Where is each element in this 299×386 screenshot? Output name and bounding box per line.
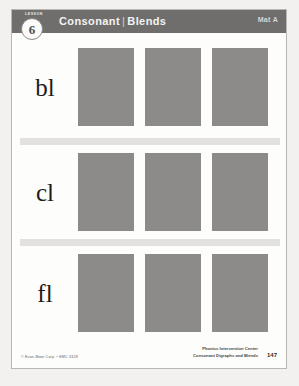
picture-placeholder[interactable]	[78, 254, 134, 332]
picture-placeholder[interactable]	[212, 254, 268, 332]
row-divider	[20, 239, 280, 246]
worksheet-body: bl cl fl	[12, 33, 286, 338]
picture-placeholder[interactable]	[145, 254, 201, 332]
blend-row: bl	[12, 41, 286, 133]
lesson-label: LESSON	[21, 12, 47, 16]
page-number: 147	[267, 352, 277, 358]
blend-label: fl	[12, 281, 78, 306]
header-bar: Consonant|Blends Mat A	[12, 10, 286, 33]
picture-placeholder[interactable]	[145, 153, 201, 231]
blend-label: bl	[12, 75, 78, 100]
mat-marker: Mat A	[258, 16, 278, 23]
picture-placeholder[interactable]	[145, 48, 201, 126]
picture-strip	[78, 153, 286, 231]
picture-placeholder[interactable]	[212, 48, 268, 126]
footer-series: Phonics Intervention Center Consonant Di…	[193, 346, 258, 359]
footer-series-line2: Consonant Digraphs and Blends	[193, 353, 258, 359]
worksheet-page: Consonant|Blends Mat A LESSON 6 bl cl	[11, 9, 287, 369]
footer-series-line1: Phonics Intervention Center	[193, 346, 258, 352]
row-divider	[20, 138, 280, 145]
title-secondary: Blends	[127, 15, 166, 27]
picture-strip	[78, 48, 286, 126]
blend-row: cl	[12, 146, 286, 238]
title-primary: Consonant	[59, 15, 120, 27]
picture-placeholder[interactable]	[78, 48, 134, 126]
picture-placeholder[interactable]	[78, 153, 134, 231]
picture-strip	[78, 254, 286, 332]
footer-copyright: © Evan-Moor Corp. • EMC 3328	[21, 355, 78, 359]
footer: © Evan-Moor Corp. • EMC 3328 Phonics Int…	[12, 340, 286, 362]
picture-placeholder[interactable]	[212, 153, 268, 231]
blend-label: cl	[12, 180, 78, 205]
blend-row: fl	[12, 247, 286, 339]
page-title: Consonant|Blends	[59, 15, 166, 27]
